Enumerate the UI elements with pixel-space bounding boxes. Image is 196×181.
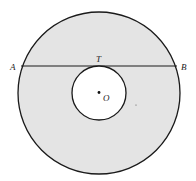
- label-a: A: [9, 62, 16, 72]
- center-point-o: [98, 91, 101, 94]
- label-b: B: [181, 62, 187, 72]
- stray-dot: [135, 104, 136, 105]
- concentric-circles-diagram: A B T O: [0, 0, 196, 181]
- label-o: O: [103, 93, 110, 103]
